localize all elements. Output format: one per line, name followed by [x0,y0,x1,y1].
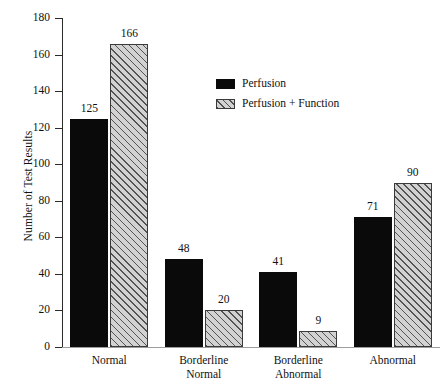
y-axis-tick [55,128,62,129]
y-axis-tick-label: 60 [12,231,50,243]
y-axis-tick-label: 120 [12,122,50,134]
legend-item-label: Perfusion + Function [242,98,339,110]
bar-value-label: 20 [199,294,249,306]
bar [394,183,432,348]
y-axis-tick [55,347,62,348]
y-axis-tick [55,237,62,238]
bar-value-label: 9 [293,315,343,327]
bar-value-label: 90 [388,167,438,179]
legend-swatch-icon [216,99,235,109]
y-axis-tick [55,164,62,165]
bar-chart: Number of Test Results 02040608010012014… [0,0,447,389]
y-axis-tick-label: 20 [12,304,50,316]
y-axis-tick [55,18,62,19]
bar [110,44,148,347]
bar-value-label: 125 [64,103,114,115]
y-axis-tick-label: 80 [12,195,50,207]
y-axis-tick-label: 140 [12,85,50,97]
x-axis-category-label: Abnormal [333,353,447,367]
legend-swatch-icon [216,79,235,89]
bar-value-label: 41 [253,256,303,268]
bar-value-label: 166 [104,28,154,40]
bar [259,272,297,347]
y-axis-tick [55,201,62,202]
y-axis-tick [55,55,62,56]
y-axis-tick [55,274,62,275]
bar-value-label: 48 [159,243,209,255]
y-axis-tick [55,310,62,311]
legend: PerfusionPerfusion + Function [216,76,339,116]
y-axis-tick-label: 160 [12,49,50,61]
plot-area: 12516648204197190 [62,18,440,347]
y-axis-tick-label: 40 [12,268,50,280]
y-axis-tick [55,91,62,92]
legend-item-label: Perfusion [242,78,286,90]
x-axis-baseline [62,347,440,348]
y-axis-tick-label: 100 [12,158,50,170]
y-axis-tick-label: 0 [12,341,50,353]
bar [354,217,392,347]
bar-value-label: 71 [348,201,398,213]
legend-item: Perfusion + Function [216,96,339,111]
legend-item: Perfusion [216,76,339,91]
bar [299,331,337,347]
bar [70,119,108,347]
y-axis-tick-label: 180 [12,12,50,24]
bar [165,259,203,347]
bar [205,310,243,347]
